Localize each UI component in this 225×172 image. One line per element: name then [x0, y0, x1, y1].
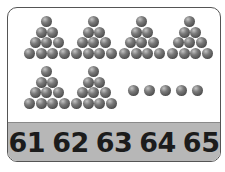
ball	[167, 48, 178, 59]
ball	[94, 48, 105, 59]
ball	[136, 16, 147, 27]
ball	[154, 48, 165, 59]
ball	[36, 48, 47, 59]
ten-group-triangle	[71, 16, 119, 60]
ball	[100, 87, 111, 98]
loose-ball	[128, 85, 139, 96]
ball	[47, 98, 58, 109]
ball	[88, 87, 99, 98]
ball	[88, 66, 99, 77]
ball	[94, 27, 105, 38]
ball	[30, 37, 41, 48]
ball	[47, 27, 58, 38]
ball	[131, 27, 142, 38]
ball	[190, 48, 201, 59]
ball	[106, 48, 117, 59]
ball	[36, 27, 47, 38]
ball	[77, 87, 88, 98]
ten-group-triangle	[167, 16, 215, 60]
ball	[94, 98, 105, 109]
ball	[53, 87, 64, 98]
ball	[24, 98, 35, 109]
loose-ball	[144, 85, 155, 96]
ball	[47, 77, 58, 88]
ten-group-triangle	[71, 66, 119, 110]
ball	[196, 37, 207, 48]
number-62: 62	[52, 129, 89, 156]
ball	[41, 66, 52, 77]
ball	[142, 48, 153, 59]
ball	[53, 37, 64, 48]
ball	[106, 98, 117, 109]
ball	[184, 37, 195, 48]
number-63: 63	[96, 129, 133, 156]
ball	[71, 98, 82, 109]
ball	[83, 77, 94, 88]
ball	[136, 37, 147, 48]
ball	[119, 48, 130, 59]
ten-group-triangle	[24, 16, 72, 60]
ball	[30, 87, 41, 98]
ball	[179, 27, 190, 38]
ball	[24, 48, 35, 59]
ball	[94, 77, 105, 88]
ball	[100, 37, 111, 48]
ball	[148, 37, 159, 48]
ball	[83, 27, 94, 38]
ball	[59, 48, 70, 59]
ball	[142, 27, 153, 38]
ball	[202, 48, 213, 59]
ball	[83, 98, 94, 109]
ball	[41, 16, 52, 27]
ball	[36, 77, 47, 88]
number-64: 64	[139, 129, 176, 156]
ball	[59, 98, 70, 109]
number-strip: 61 62 63 64 65	[8, 122, 220, 161]
loose-ball	[176, 85, 187, 96]
ball	[125, 37, 136, 48]
ten-group-triangle	[119, 16, 167, 60]
ball	[77, 37, 88, 48]
ball	[131, 48, 142, 59]
ten-group-triangle	[24, 66, 72, 110]
ball	[184, 16, 195, 27]
ball	[173, 37, 184, 48]
ball	[83, 48, 94, 59]
loose-ball	[192, 85, 203, 96]
ball	[190, 27, 201, 38]
counting-card: 61 62 63 64 65	[7, 7, 221, 162]
ball	[41, 37, 52, 48]
ball	[179, 48, 190, 59]
ball	[88, 37, 99, 48]
ball	[36, 98, 47, 109]
ball	[88, 16, 99, 27]
ball	[47, 48, 58, 59]
number-65: 65	[183, 129, 220, 156]
ball	[41, 87, 52, 98]
ball	[71, 48, 82, 59]
loose-ball	[160, 85, 171, 96]
number-61: 61	[9, 129, 46, 156]
